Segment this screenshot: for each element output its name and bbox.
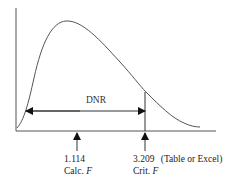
- f-curve: [17, 21, 200, 128]
- crit-f-label: Crit. F: [133, 166, 159, 176]
- crit-f-value: 3.209 (Table or Excel): [133, 154, 222, 165]
- calc-f-label: Calc. F: [64, 166, 92, 176]
- f-distribution-diagram: DNR 1.114 Calc. F 3.209 (Table or Excel)…: [0, 0, 233, 188]
- calc-f-value: 1.114: [64, 154, 85, 164]
- dnr-label: DNR: [86, 95, 107, 105]
